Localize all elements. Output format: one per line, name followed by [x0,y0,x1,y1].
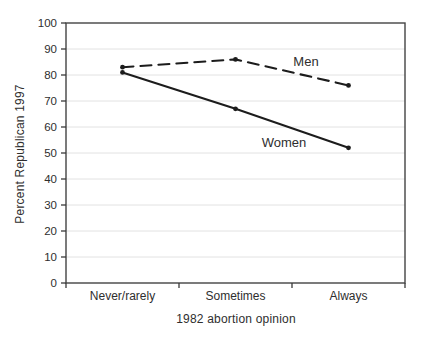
x-category-label: Always [329,289,367,303]
y-axis-title: Percent Republican 1997 [13,84,27,223]
y-tick-label: 20 [44,225,57,237]
data-point-women [346,145,351,150]
x-category-label: Sometimes [205,289,265,303]
y-tick-label: 70 [44,95,57,107]
data-point-men [233,57,238,62]
y-tick-label: 10 [44,251,57,263]
data-point-men [120,65,125,70]
y-tick-label: 80 [44,69,57,81]
y-tick-label: 0 [51,277,57,289]
data-point-men [346,83,351,88]
series-label-men: Men [293,54,318,69]
data-point-women [120,70,125,75]
x-axis-title: 1982 abortion opinion [176,312,296,326]
y-tick-label: 30 [44,199,57,211]
y-tick-label: 50 [44,147,57,159]
y-tick-label: 40 [44,173,57,185]
data-point-women [233,106,238,111]
series-label-women: Women [262,135,307,150]
y-tick-label: 60 [44,121,57,133]
y-tick-label: 100 [38,17,57,29]
y-tick-label: 90 [44,43,57,55]
line-chart-figure: 0102030405060708090100Never/rarelySometi… [0,0,427,339]
x-category-label: Never/rarely [90,289,155,303]
chart-canvas: 0102030405060708090100Never/rarelySometi… [0,0,427,339]
